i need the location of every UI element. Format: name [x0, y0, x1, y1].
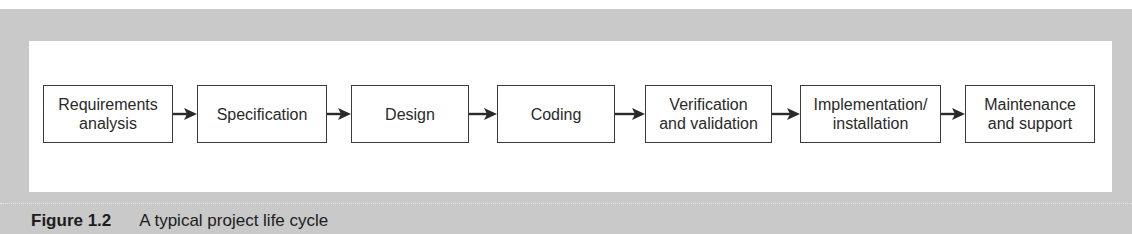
stage-label: Specification [217, 105, 308, 124]
stage-design: Design [351, 85, 469, 143]
caption-text: A typical project life cycle [139, 211, 328, 230]
stage-requirements-analysis: Requirements analysis [43, 85, 173, 143]
arrow-right-icon [173, 107, 197, 121]
diagram-canvas: Requirements analysis Specification Desi… [29, 41, 1112, 192]
arrow-right-icon [469, 107, 497, 121]
stage-label: Implementation/ installation [814, 95, 928, 133]
stage-coding: Coding [497, 85, 615, 143]
stage-implementation-installation: Implementation/ installation [800, 85, 941, 143]
stage-label: Design [385, 105, 435, 124]
stage-label: Maintenance and support [984, 95, 1076, 133]
stage-maintenance-and-support: Maintenance and support [965, 85, 1095, 143]
stage-label: Coding [531, 105, 582, 124]
divider [0, 203, 1132, 205]
figure-caption: Figure 1.2A typical project life cycle [31, 211, 328, 231]
stage-verification-and-validation: Verification and validation [645, 85, 772, 143]
stage-specification: Specification [197, 85, 327, 143]
caption-label: Figure 1.2 [31, 211, 111, 230]
figure-panel: Requirements analysis Specification Desi… [0, 9, 1132, 234]
stage-label: Requirements analysis [58, 95, 158, 133]
arrow-right-icon [941, 107, 965, 121]
stage-label: Verification and validation [659, 95, 758, 133]
arrow-right-icon [327, 107, 351, 121]
arrow-right-icon [772, 107, 800, 121]
arrow-right-icon [615, 107, 645, 121]
